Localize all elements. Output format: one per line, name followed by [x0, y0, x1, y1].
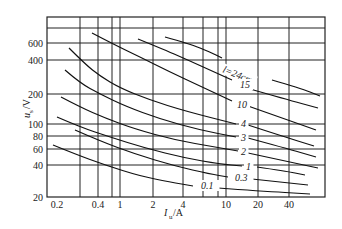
x-axis-title: I u /A: [163, 207, 184, 221]
x-tick-label: 10: [221, 199, 231, 210]
y-tick-label: 40: [33, 160, 43, 171]
curve-label: 4: [241, 118, 246, 129]
y-tick-label: 400: [28, 55, 43, 66]
curve-3: 3: [65, 70, 316, 157]
curve-label: 3: [240, 132, 246, 143]
curve-line: [65, 70, 236, 137]
y-tick-label: 600: [28, 38, 43, 49]
x-tick-label: 20: [253, 199, 263, 210]
y-tick-label: 80: [33, 131, 43, 142]
curve-label: 15: [240, 79, 250, 90]
curve-line: [250, 89, 318, 108]
curve-label: 1: [246, 161, 251, 172]
y-tick-label: 100: [28, 119, 43, 130]
curve-1: 1: [57, 117, 305, 175]
y-axis-title-sub: s: [27, 110, 35, 113]
x-axis-title-unit: /A: [173, 207, 184, 218]
curve-label: 0.3: [235, 172, 248, 183]
x-tick-label: 40: [284, 199, 294, 210]
plot-frame: [47, 17, 325, 197]
chart: l=24cm151043210.30.1 0.20.4124102040 600…: [0, 0, 342, 229]
grid-lines: [47, 17, 325, 197]
y-tick-label: 200: [28, 89, 43, 100]
curve-label: 0.1: [201, 180, 214, 191]
curve-label: 2: [241, 146, 246, 157]
x-tick-label: 0.2: [51, 199, 64, 210]
curve-line: [252, 179, 308, 185]
x-axis-title-main: I: [163, 207, 168, 218]
y-axis-ticks: 60040020010080604020: [28, 38, 43, 203]
x-tick-label: 1: [118, 199, 123, 210]
curve-line: [257, 167, 305, 175]
x-tick-label: 0.4: [92, 199, 105, 210]
x-tick-label: 2: [151, 199, 156, 210]
y-axis-title-unit: /V: [21, 98, 32, 109]
curve-label: 10: [237, 99, 247, 110]
curves: l=24cm151043210.30.1: [53, 33, 320, 194]
curve-line: [218, 188, 310, 194]
curve-line: [165, 37, 222, 58]
curve-0-3: 0.3: [75, 130, 308, 185]
y-axis-title: u s /V: [21, 98, 35, 118]
y-tick-label: 20: [33, 192, 43, 203]
y-tick-label: 60: [33, 144, 43, 155]
curve-2: 2: [61, 97, 318, 168]
